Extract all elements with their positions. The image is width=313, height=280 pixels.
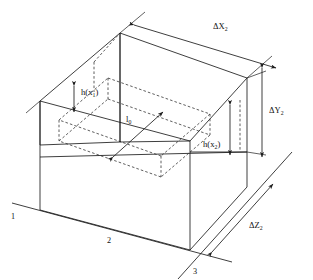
inner-top-front-left <box>59 120 161 156</box>
ground-line-right <box>178 152 292 279</box>
inner-bottom-back-right <box>108 99 210 135</box>
delta-z2-arrow-line <box>212 184 273 252</box>
delta-x2-label: ΔX2 <box>213 21 228 32</box>
dim-extension-top-right <box>247 56 272 78</box>
dimension-h-x2: h(x2) <box>203 100 240 155</box>
isometric-box-figure: ΔX2 ΔY2 ΔZ2 h(x1) <box>0 0 313 280</box>
delta-y2-ext-top <box>247 71 266 78</box>
dimension-delta-x2: ΔX2 <box>134 21 276 68</box>
diagram-canvas: ΔX2 ΔY2 ΔZ2 h(x1) <box>0 0 313 280</box>
inner-bottom-back-left <box>59 99 108 141</box>
ledge-right-lower <box>120 152 247 155</box>
ledge-left <box>40 142 120 145</box>
h-x1-label: h(x1) <box>81 87 98 98</box>
dim-extension-top-left <box>120 12 145 33</box>
ground-line-front <box>12 203 232 262</box>
ledge-left-lower <box>40 155 120 157</box>
delta-x2-arrow-line <box>134 25 276 68</box>
delta-z2-label: ΔZ2 <box>249 220 263 231</box>
corner-label-2: 2 <box>107 236 111 245</box>
box-bottom-right-edge <box>190 187 247 250</box>
inner-bottom-front-left <box>59 141 161 177</box>
dimension-delta-y2: ΔY2 <box>247 68 284 157</box>
delta-y2-label: ΔY2 <box>269 105 284 116</box>
inner-top-back-right <box>108 78 210 114</box>
l0-arrow-line <box>113 112 163 157</box>
step-ledge-edges <box>40 33 247 157</box>
dimension-h-x1: h(x1) <box>74 86 98 112</box>
corner-number-labels: 1 2 3 <box>11 212 197 276</box>
corner-label-1: 1 <box>11 212 15 221</box>
outer-box-solid-edges <box>12 12 292 279</box>
box-top-rim-front-right <box>190 78 247 141</box>
delta-y2-ext-bottom <box>247 152 266 155</box>
box-bottom-front-edge <box>40 210 190 250</box>
inner-back-corner-riser <box>94 33 120 62</box>
dimension-l0: l0 <box>113 112 163 157</box>
l0-label: l0 <box>126 114 131 125</box>
box-top-rim-back-left <box>40 33 120 101</box>
inner-dashed-region <box>59 33 210 177</box>
dimension-delta-z2: ΔZ2 <box>212 184 273 252</box>
h-x2-label: h(x2) <box>203 139 220 150</box>
dim-extension-left-low <box>26 101 40 113</box>
inner-top-back-left <box>59 78 108 120</box>
corner-label-3: 3 <box>193 267 197 276</box>
